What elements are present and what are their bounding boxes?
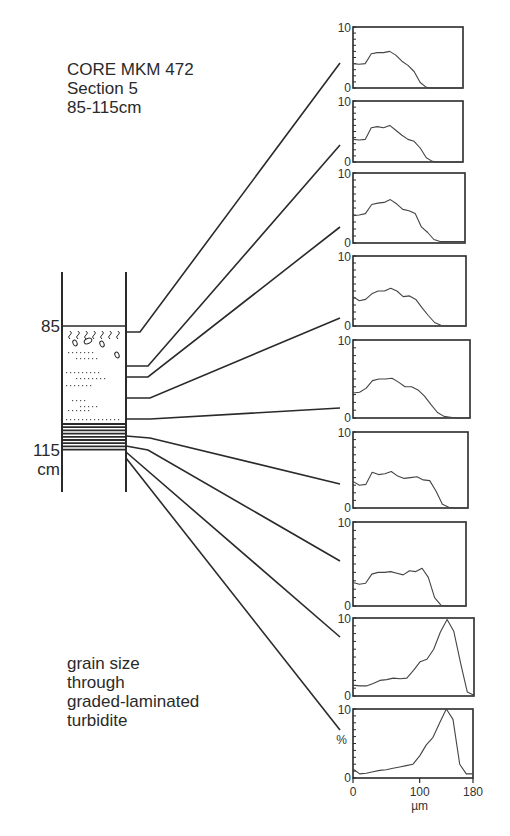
sand-dot bbox=[88, 406, 89, 407]
sand-dot bbox=[88, 378, 89, 379]
sand-dot bbox=[80, 400, 81, 401]
y-tick-label-0: 0 bbox=[344, 319, 351, 333]
sand-dot bbox=[114, 419, 115, 420]
bioturbation-icon bbox=[69, 331, 72, 339]
x-tick-label-0: 0 bbox=[350, 785, 357, 799]
y-tick-label-0: 0 bbox=[344, 501, 351, 515]
sand-dot bbox=[76, 410, 77, 411]
sand-dot bbox=[98, 372, 99, 373]
sand-dot bbox=[94, 419, 95, 420]
sand-dot bbox=[92, 352, 93, 353]
y-tick-label-0: 0 bbox=[344, 689, 351, 703]
y-tick-label-10: 10 bbox=[338, 250, 352, 264]
sand-dot bbox=[92, 378, 93, 379]
sand-dot bbox=[74, 419, 75, 420]
grain-size-chart-2: 100 bbox=[338, 95, 463, 169]
bioturbation-icon bbox=[101, 331, 104, 339]
sand-dot bbox=[68, 410, 69, 411]
core-column bbox=[62, 272, 126, 492]
sand-dot bbox=[78, 372, 79, 373]
sand-dot bbox=[90, 372, 91, 373]
sand-dot bbox=[84, 352, 85, 353]
sand-dot bbox=[76, 358, 77, 359]
grain-size-chart-4: 100 bbox=[338, 250, 466, 333]
chart-frame bbox=[353, 709, 473, 778]
bioturbation-icon bbox=[77, 331, 80, 339]
connector-line-1 bbox=[126, 63, 340, 332]
grain-size-chart-9: 100%0100180µm bbox=[336, 703, 483, 813]
chart-frame bbox=[353, 256, 466, 326]
sand-dot bbox=[80, 352, 81, 353]
y-tick-label-10: 10 bbox=[338, 21, 352, 35]
sand-dot bbox=[118, 419, 119, 420]
sand-dot bbox=[86, 372, 87, 373]
sand-dot bbox=[106, 419, 107, 420]
sand-dot bbox=[88, 410, 89, 411]
connector-line-5 bbox=[126, 408, 340, 419]
grain-size-chart-8: 100 bbox=[338, 612, 474, 703]
sand-dot bbox=[104, 378, 105, 379]
sand-dot bbox=[96, 378, 97, 379]
sand-dot bbox=[76, 352, 77, 353]
sand-dot bbox=[84, 358, 85, 359]
sand-dot bbox=[110, 419, 111, 420]
sand-dot bbox=[86, 385, 87, 386]
sand-dot bbox=[82, 372, 83, 373]
sand-dot bbox=[72, 410, 73, 411]
clast-icon bbox=[99, 340, 105, 347]
grain-size-chart-6: 100 bbox=[338, 426, 468, 515]
sand-dot bbox=[68, 352, 69, 353]
y-tick-label-10: 10 bbox=[338, 95, 352, 109]
x-tick-label-180: 180 bbox=[463, 785, 483, 799]
sand-dot bbox=[72, 400, 73, 401]
y-tick-label-10: 10 bbox=[338, 334, 352, 348]
sand-dot bbox=[84, 400, 85, 401]
clast-icon bbox=[72, 339, 78, 346]
sand-dot bbox=[86, 419, 87, 420]
grain-size-chart-7: 100 bbox=[338, 516, 466, 613]
sand-dot bbox=[80, 358, 81, 359]
bioturbation-icon bbox=[85, 331, 88, 339]
clast-icon bbox=[114, 351, 120, 358]
sand-dot bbox=[70, 419, 71, 420]
y-tick-label-10: 10 bbox=[338, 612, 352, 626]
sand-dot bbox=[84, 378, 85, 379]
sand-dot bbox=[66, 419, 67, 420]
grain-size-charts: 100100100100100100100100100%0100180µm bbox=[336, 21, 483, 813]
sand-dot bbox=[74, 372, 75, 373]
sand-dot bbox=[78, 385, 79, 386]
sand-dot bbox=[82, 385, 83, 386]
sand-dot bbox=[72, 352, 73, 353]
y-tick-label-0: 0 bbox=[344, 771, 351, 785]
sand-dot bbox=[66, 372, 67, 373]
sand-dot bbox=[90, 419, 91, 420]
sand-dot bbox=[76, 378, 77, 379]
grain-size-chart-5: 100 bbox=[338, 334, 470, 425]
sand-dot bbox=[96, 406, 97, 407]
y-tick-label-10: 10 bbox=[338, 703, 352, 717]
y-unit-label: % bbox=[336, 733, 347, 747]
sample-connector-lines bbox=[126, 63, 340, 730]
x-unit-label: µm bbox=[411, 799, 428, 813]
sand-dot bbox=[96, 358, 97, 359]
sand-dot bbox=[80, 378, 81, 379]
x-tick-label-100: 100 bbox=[410, 785, 430, 799]
bioturbation-icon bbox=[117, 331, 120, 339]
y-tick-label-10: 10 bbox=[338, 167, 352, 181]
sand-dot bbox=[92, 358, 93, 359]
sand-dot bbox=[90, 385, 91, 386]
sand-dot bbox=[78, 419, 79, 420]
sand-dot bbox=[70, 372, 71, 373]
chart-frame bbox=[353, 340, 470, 418]
y-tick-label-10: 10 bbox=[338, 426, 352, 440]
y-tick-label-0: 0 bbox=[344, 236, 351, 250]
sand-dot bbox=[76, 400, 77, 401]
sand-dot bbox=[80, 406, 81, 407]
sand-dot bbox=[94, 372, 95, 373]
sand-dot bbox=[84, 410, 85, 411]
y-tick-label-0: 0 bbox=[344, 411, 351, 425]
sand-dot bbox=[84, 406, 85, 407]
sand-dot bbox=[88, 358, 89, 359]
connector-line-6 bbox=[126, 436, 340, 484]
sand-dot bbox=[88, 352, 89, 353]
